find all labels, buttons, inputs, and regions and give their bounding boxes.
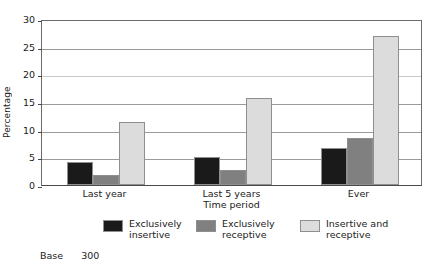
y-axis-tick-labels: 051015202530 <box>14 20 38 186</box>
chart-legend: Exclusively insertiveExclusively recepti… <box>0 219 436 249</box>
footnote-value: 300 <box>81 250 99 262</box>
x-tick-label: Ever <box>348 188 369 199</box>
y-tick-label: 30 <box>23 15 35 25</box>
plot-area <box>41 20 422 186</box>
y-tick-label: 5 <box>29 154 35 164</box>
footnote-label: Base <box>40 250 63 262</box>
bar-group <box>42 21 169 185</box>
bar <box>347 138 373 185</box>
plot-block: Percentage 051015202530 Last yearLast 5 … <box>0 8 436 218</box>
bar-group <box>169 21 296 185</box>
bar <box>67 162 93 185</box>
bar <box>220 170 246 185</box>
bar <box>194 157 220 185</box>
bar <box>119 122 145 185</box>
legend-item[interactable]: Exclusively insertive <box>103 219 182 240</box>
legend-swatch-icon <box>103 220 123 232</box>
legend-label: Exclusively receptive <box>222 219 275 240</box>
bar <box>246 98 272 185</box>
legend-item[interactable]: Insertive and receptive <box>300 219 388 240</box>
y-tick-label: 20 <box>23 71 35 81</box>
legend-swatch-icon <box>196 220 216 232</box>
y-tick-label: 25 <box>23 43 35 53</box>
x-axis-title: Time period <box>203 199 260 210</box>
x-axis-tick-labels: Last yearLast 5 yearsEverTime period <box>41 188 422 218</box>
x-tick-label: Last 5 years <box>202 188 260 199</box>
legend-item[interactable]: Exclusively receptive <box>196 219 275 240</box>
y-tick-label: 10 <box>23 126 35 136</box>
legend-swatch-icon <box>300 220 320 232</box>
footnote: Base 300 <box>40 250 99 262</box>
x-tick-label: Last year <box>82 188 126 199</box>
bar <box>321 148 347 185</box>
bar <box>93 175 119 186</box>
bar-groups <box>42 21 421 185</box>
bar-group <box>296 21 423 185</box>
y-tick-label: 0 <box>29 181 35 191</box>
bar-chart-figure: Percentage 051015202530 Last yearLast 5 … <box>0 0 436 270</box>
bar <box>373 36 399 185</box>
legend-label: Insertive and receptive <box>326 219 388 240</box>
legend-label: Exclusively insertive <box>129 219 182 240</box>
y-tick-label: 15 <box>23 98 35 108</box>
